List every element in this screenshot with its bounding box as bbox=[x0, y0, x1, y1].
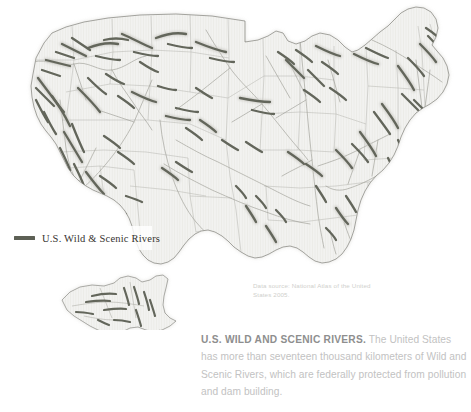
data-source-note: Data source: National Atlas of the Unite… bbox=[253, 281, 378, 300]
us-map-svg bbox=[0, 0, 471, 330]
caption-title: U.S. WILD AND SCENIC RIVERS. bbox=[201, 334, 366, 345]
legend-label: U.S. Wild & Scenic Rivers bbox=[42, 233, 160, 244]
map-area: U.S. Wild & Scenic Rivers Data source: N… bbox=[0, 0, 471, 330]
figure-root: U.S. Wild & Scenic Rivers Data source: N… bbox=[0, 0, 471, 412]
legend-line-swatch-icon bbox=[14, 236, 35, 240]
figure-caption: U.S. WILD AND SCENIC RIVERS. The United … bbox=[201, 331, 469, 401]
map-legend: U.S. Wild & Scenic Rivers bbox=[10, 226, 152, 250]
alaska-inset bbox=[30, 275, 184, 330]
